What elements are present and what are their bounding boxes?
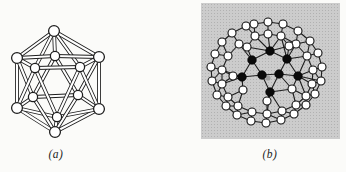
cluster-diagrams xyxy=(0,0,346,172)
panel-b-label: (b) xyxy=(263,148,278,160)
figure-boron-clusters: (a) (b) xyxy=(0,0,346,172)
panel-a-label: (a) xyxy=(49,148,64,160)
